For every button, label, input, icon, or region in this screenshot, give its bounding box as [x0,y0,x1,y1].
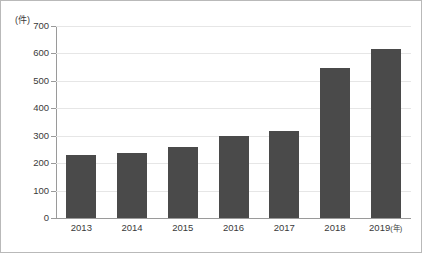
y-tick-mark [51,26,56,27]
gridline [56,108,411,109]
bar [269,131,299,218]
y-tick-label: 400 [5,103,49,113]
bar [117,153,147,218]
y-tick-label: 500 [5,76,49,86]
x-axis-tick-labels: 2013201420152016201720182019(年) [56,223,411,241]
y-tick-label: 0 [5,213,49,223]
y-tick-mark [51,218,56,219]
bar-chart: (件) 0100200300400500600700 2013201420152… [0,0,422,253]
y-tick-mark [51,191,56,192]
plot-area [56,26,411,218]
y-tick-label: 300 [5,131,49,141]
bar [371,49,401,219]
y-tick-label: 600 [5,48,49,58]
bar [168,147,198,218]
bar [320,68,350,218]
gridline [56,81,411,82]
bar [219,136,249,218]
y-tick-mark [51,136,56,137]
y-axis-tick-labels: 0100200300400500600700 [1,1,49,253]
y-tick-label: 700 [5,21,49,31]
y-tick-mark [51,108,56,109]
gridline [56,53,411,54]
bar [66,155,96,218]
y-tick-mark [51,163,56,164]
y-tick-mark [51,53,56,54]
x-tick-label: 2019(年) [356,223,416,233]
y-tick-label: 200 [5,158,49,168]
y-tick-label: 100 [5,186,49,196]
gridline [56,26,411,27]
y-tick-mark [51,81,56,82]
axis-baseline [56,218,411,219]
